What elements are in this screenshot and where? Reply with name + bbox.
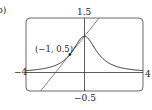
point-label: (−1, 0.5) xyxy=(35,45,73,54)
x-min-label: −4 xyxy=(14,68,27,77)
y-min-label: −0.5 xyxy=(74,94,96,103)
x-max-label: 4 xyxy=(145,70,151,79)
y-max-label: 1.5 xyxy=(77,8,91,17)
